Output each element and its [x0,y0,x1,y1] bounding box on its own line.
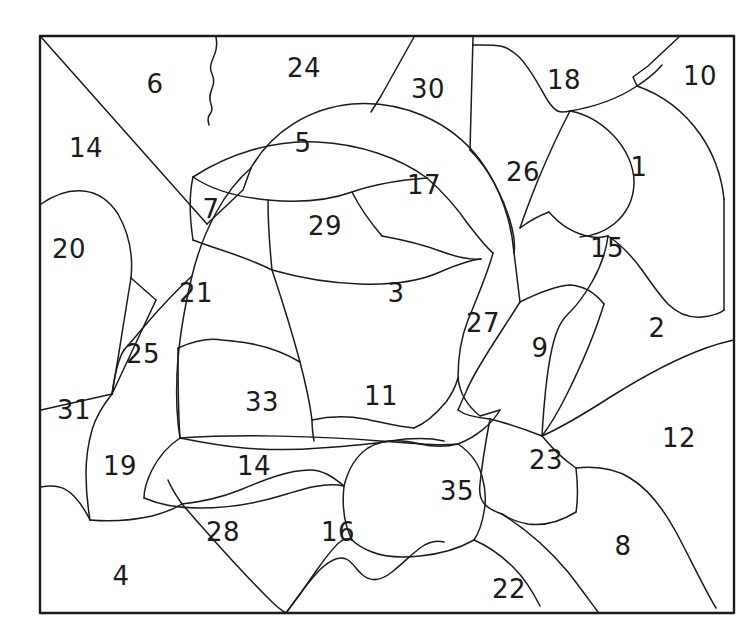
region-number-22: 22 [492,576,526,602]
region-number-7: 7 [202,196,219,222]
region-number-3: 3 [387,280,404,306]
region-number-14: 14 [69,135,103,161]
region-number-12: 12 [662,425,696,451]
region-number-21: 21 [179,280,213,306]
region-number-16: 16 [321,519,355,545]
coloring-page: 6243018101451726172920152132272593311311… [0,0,753,644]
region-number-20: 20 [52,236,86,262]
region-number-14: 14 [237,453,271,479]
region-number-28: 28 [206,519,240,545]
region-number-4: 4 [112,563,129,589]
region-number-11: 11 [364,383,398,409]
region-number-35: 35 [440,478,474,504]
canvas-background [0,0,753,644]
region-number-23: 23 [529,447,563,473]
region-number-26: 26 [506,159,540,185]
turtle-outline-artwork [0,0,753,644]
region-number-29: 29 [308,213,342,239]
region-number-24: 24 [287,55,321,81]
region-number-19: 19 [103,453,137,479]
region-number-6: 6 [146,71,163,97]
region-number-30: 30 [411,76,445,102]
region-number-5: 5 [294,130,311,156]
region-number-10: 10 [683,63,717,89]
region-number-15: 15 [590,235,624,261]
region-number-33: 33 [245,389,279,415]
region-number-17: 17 [407,172,441,198]
region-number-31: 31 [57,397,91,423]
region-number-27: 27 [466,310,500,336]
region-number-1: 1 [630,154,647,180]
region-number-2: 2 [648,315,665,341]
region-number-9: 9 [531,335,548,361]
region-number-18: 18 [547,67,581,93]
region-number-8: 8 [614,533,631,559]
region-number-25: 25 [126,341,160,367]
